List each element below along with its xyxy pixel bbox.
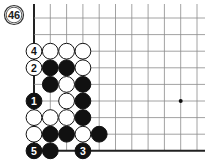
white-stone xyxy=(59,93,75,109)
white-stone xyxy=(75,60,91,76)
white-stone xyxy=(59,77,75,93)
black-stone xyxy=(42,60,58,76)
white-stone xyxy=(26,126,42,142)
black-stone xyxy=(42,143,58,159)
white-stone xyxy=(75,43,91,59)
white-stone xyxy=(59,43,75,59)
white-stone xyxy=(75,126,91,142)
black-stone xyxy=(59,126,75,142)
star-points xyxy=(179,99,183,103)
black-stone xyxy=(42,77,58,93)
black-stone xyxy=(75,110,91,126)
black-stone: 1 xyxy=(26,93,42,109)
white-stone xyxy=(59,110,75,126)
black-stone xyxy=(75,93,91,109)
white-stone: 2 xyxy=(26,60,42,76)
move-number: 4 xyxy=(31,45,37,57)
white-stone: 4 xyxy=(26,43,42,59)
black-stone xyxy=(75,77,91,93)
star-point xyxy=(179,99,183,103)
black-stone: 5 xyxy=(26,143,42,159)
move-number: 3 xyxy=(80,145,86,157)
go-board-diagram: 42153 46 xyxy=(0,0,209,164)
diagram-number-badge: 46 xyxy=(5,6,24,25)
move-number: 1 xyxy=(31,95,37,107)
move-number: 2 xyxy=(31,62,37,74)
diagram-number: 46 xyxy=(8,9,20,21)
board-grid xyxy=(34,4,205,151)
black-stone xyxy=(91,126,107,142)
white-stone xyxy=(42,43,58,59)
white-stone xyxy=(26,110,42,126)
black-stone: 3 xyxy=(75,143,91,159)
black-stone xyxy=(42,126,58,142)
white-stone xyxy=(42,110,58,126)
black-stone xyxy=(59,60,75,76)
move-number: 5 xyxy=(31,145,37,157)
